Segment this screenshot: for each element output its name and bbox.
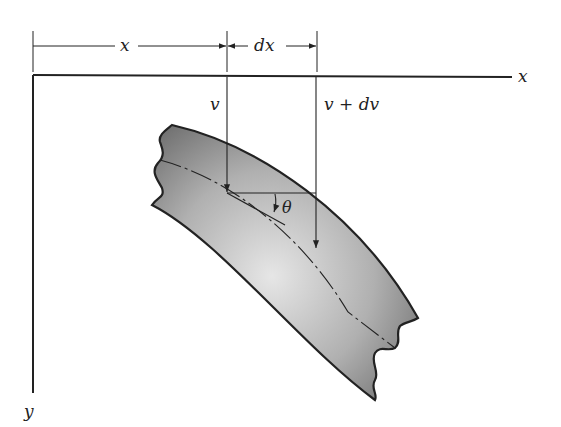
dx-dimension-label: dx <box>254 37 274 54</box>
diagram-graphics <box>0 0 561 427</box>
beam-deflection-diagram: x dx x y v v + dv θ <box>0 0 561 427</box>
x-dimension-label: x <box>120 37 130 54</box>
x-axis <box>33 75 512 77</box>
x-axis-label: x <box>518 68 528 85</box>
beam-shape <box>152 125 418 400</box>
y-axis-label: y <box>24 403 34 420</box>
theta-label: θ <box>282 200 292 216</box>
v-plus-dv-label: v + dv <box>324 96 379 113</box>
v-label: v <box>210 96 220 113</box>
